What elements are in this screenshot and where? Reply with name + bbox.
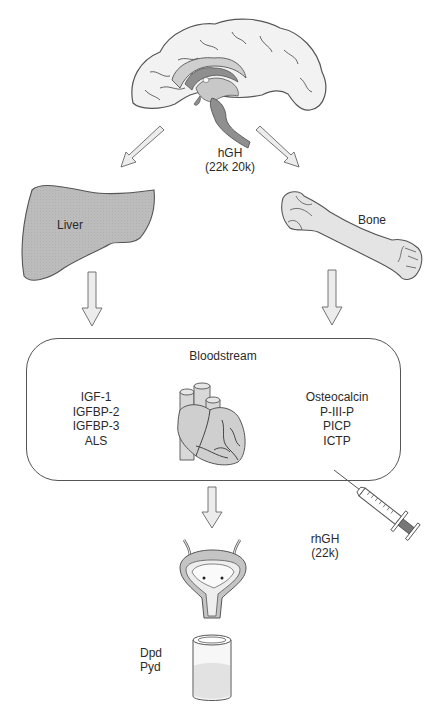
- arrow-liver-to-bloodstream: [82, 272, 102, 326]
- liver-label: Liver: [57, 218, 83, 232]
- marker-osteocalcin: Osteocalcin: [292, 390, 382, 405]
- marker-p3p: P-III-P: [292, 405, 382, 420]
- bone-label: Bone: [358, 213, 386, 227]
- marker-dpd: Dpd: [140, 646, 162, 660]
- hgh-name: hGH: [200, 146, 260, 160]
- urine-container-icon: [193, 635, 231, 701]
- urine-markers-label: Dpd Pyd: [140, 646, 162, 674]
- hgh-label: hGH (22k 20k): [200, 146, 260, 174]
- arrow-brain-to-bone: [256, 126, 299, 167]
- marker-als: ALS: [56, 434, 136, 449]
- arrow-bloodstream-to-bladder: [202, 487, 222, 528]
- liver-markers-list: IGF-1 IGFBP-2 IGFBP-3 ALS: [56, 390, 136, 448]
- rhgh-name: rhGH: [300, 532, 350, 546]
- bone-markers-list: Osteocalcin P-III-P PICP ICTP: [292, 390, 382, 448]
- marker-ictp: ICTP: [292, 434, 382, 449]
- marker-igf1: IGF-1: [56, 390, 136, 405]
- liver-icon: [22, 186, 154, 281]
- rhgh-isoform: (22k): [300, 546, 350, 560]
- hgh-isoforms: (22k 20k): [200, 160, 260, 174]
- marker-picp: PICP: [292, 419, 382, 434]
- marker-igfbp3: IGFBP-3: [56, 419, 136, 434]
- bladder-icon: [180, 540, 246, 618]
- rhgh-label: rhGH (22k): [300, 532, 350, 560]
- marker-pyd: Pyd: [140, 660, 162, 674]
- bloodstream-label: Bloodstream: [163, 349, 283, 363]
- marker-igfbp2: IGFBP-2: [56, 405, 136, 420]
- bone-icon: [282, 192, 422, 280]
- arrow-brain-to-liver: [121, 126, 164, 167]
- arrow-bone-to-bloodstream: [322, 270, 342, 325]
